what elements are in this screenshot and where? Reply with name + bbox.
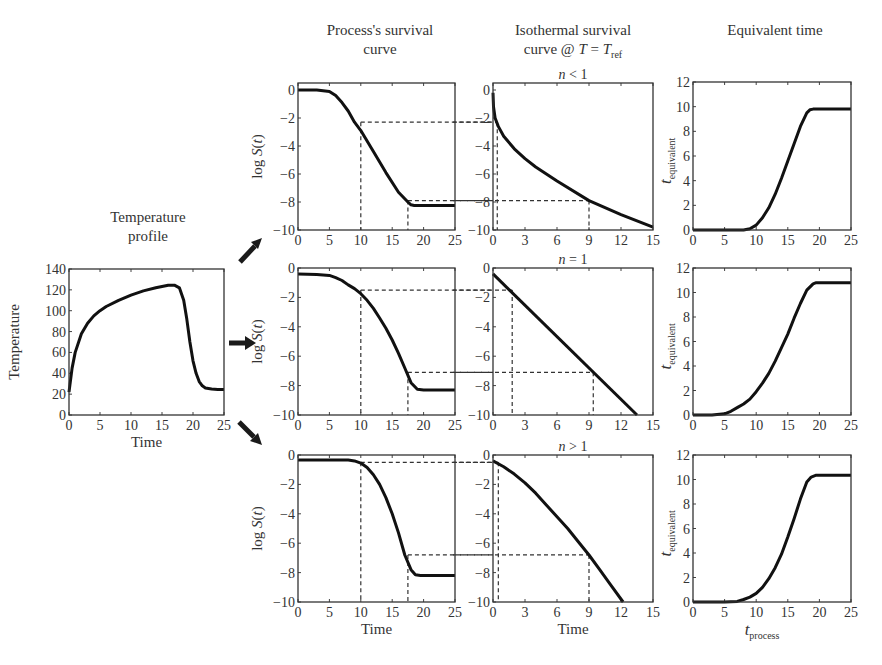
y-tick-label: −8	[280, 566, 295, 581]
x-axis-label: Time	[131, 434, 162, 450]
y-tick-label: 6	[683, 149, 690, 164]
plot-process_n_lt_1: 05101520250−2−4−6−8−10log S(t)	[249, 83, 493, 248]
x-tick-label: 25	[844, 418, 858, 433]
data-curve	[493, 93, 653, 227]
y-tick-label: 0	[288, 83, 295, 98]
plot-equivalent_n_lt_1: 0510152025024681012tequivalent	[656, 75, 858, 248]
y-tick-label: −8	[475, 195, 490, 210]
y-tick-label: −6	[475, 349, 490, 364]
x-tick-label: 25	[448, 418, 462, 433]
x-tick-label: 9	[586, 418, 593, 433]
y-tick-label: 2	[683, 198, 690, 213]
plot-equivalent_n_eq_1: 0510152025024681012tequivalent	[656, 261, 858, 433]
x-tick-label: 0	[490, 418, 497, 433]
data-curve	[693, 475, 851, 602]
y-tick-label: −2	[280, 290, 295, 305]
y-tick-label: 0	[288, 448, 295, 463]
x-tick-label: 15	[385, 233, 399, 248]
y-axis-label: tequivalent	[656, 510, 677, 557]
x-tick-label: 0	[690, 418, 697, 433]
x-tick-label: 5	[326, 418, 333, 433]
y-tick-label: −4	[475, 139, 490, 154]
x-tick-label: 10	[354, 418, 368, 433]
x-tick-label: 20	[417, 233, 431, 248]
x-tick-label: 9	[586, 233, 593, 248]
y-tick-label: −8	[280, 379, 295, 394]
arrow-down-right-icon	[239, 422, 262, 445]
x-tick-label: 15	[646, 605, 660, 620]
y-tick-label: −8	[475, 379, 490, 394]
y-tick-label: 4	[683, 359, 690, 374]
y-tick-label: −10	[273, 595, 295, 610]
x-tick-label: 25	[844, 233, 858, 248]
y-tick-label: 6	[683, 335, 690, 350]
x-tick-label: 0	[690, 605, 697, 620]
y-axis-label: tequivalent	[656, 137, 677, 184]
x-tick-label: 15	[781, 605, 795, 620]
y-tick-label: 12	[676, 261, 690, 276]
data-curve	[298, 90, 455, 206]
x-tick-label: 0	[490, 605, 497, 620]
y-tick-label: −6	[280, 349, 295, 364]
x-tick-label: 15	[385, 418, 399, 433]
y-tick-label: 0	[483, 261, 490, 276]
x-tick-label: 20	[812, 233, 826, 248]
plot-equivalent_n_gt_1: 0510152025024681012tprocesstequivalent	[656, 448, 858, 641]
x-tick-label: 15	[781, 233, 795, 248]
x-tick-label: 20	[417, 605, 431, 620]
x-tick-label: 10	[749, 418, 763, 433]
y-tick-label: −2	[475, 290, 490, 305]
x-tick-label: 5	[97, 418, 104, 433]
x-tick-label: 0	[490, 233, 497, 248]
data-curve	[493, 461, 623, 602]
y-tick-label: −4	[280, 320, 295, 335]
y-tick-label: 60	[52, 345, 66, 360]
x-tick-label: 25	[448, 605, 462, 620]
x-tick-label: 0	[295, 605, 302, 620]
data-curve	[69, 285, 224, 392]
x-axis-label: tprocess	[745, 620, 780, 641]
y-tick-label: 10	[676, 100, 690, 115]
x-tick-label: 20	[812, 605, 826, 620]
y-tick-label: −2	[280, 111, 295, 126]
y-tick-label: −4	[475, 320, 490, 335]
x-tick-label: 3	[522, 605, 529, 620]
y-axis-label: log S(t)	[249, 506, 266, 551]
x-tick-label: 0	[295, 233, 302, 248]
y-tick-label: −6	[280, 167, 295, 182]
x-tick-label: 0	[66, 418, 73, 433]
y-tick-label: 140	[45, 262, 66, 277]
y-tick-label: −4	[280, 507, 295, 522]
y-tick-label: 0	[683, 223, 690, 238]
x-tick-label: 5	[326, 605, 333, 620]
x-tick-label: 20	[417, 418, 431, 433]
x-tick-label: 5	[721, 233, 728, 248]
x-tick-label: 6	[554, 418, 561, 433]
y-tick-label: 8	[683, 497, 690, 512]
plot-process_n_gt_1: 05101520250−2−4−6−8−10Timelog S(t)	[249, 448, 493, 637]
subtitle: n = 1	[559, 252, 588, 267]
y-tick-label: 8	[683, 310, 690, 325]
subtitle: n > 1	[559, 439, 588, 454]
plot-isothermal_n_gt_1: 036912150−2−4−6−8−10n > 1Time	[453, 439, 660, 637]
x-tick-label: 10	[749, 605, 763, 620]
x-tick-label: 3	[522, 233, 529, 248]
x-tick-label: 25	[844, 605, 858, 620]
x-tick-label: 12	[614, 605, 628, 620]
y-tick-label: 10	[676, 286, 690, 301]
x-tick-label: 5	[326, 233, 333, 248]
x-tick-label: 25	[448, 233, 462, 248]
y-tick-label: 12	[676, 75, 690, 90]
y-tick-label: 40	[52, 366, 66, 381]
x-tick-label: 15	[646, 233, 660, 248]
plot-isothermal_n_lt_1: 036912150−2−4−6−8−10n < 1	[453, 67, 660, 248]
y-tick-label: 4	[683, 174, 690, 189]
y-tick-label: −10	[468, 223, 490, 238]
plot-process_n_eq_1: 05101520250−2−4−6−8−10log S(t)	[249, 261, 493, 433]
x-tick-label: 9	[586, 605, 593, 620]
y-tick-label: −2	[475, 477, 490, 492]
y-tick-label: 80	[52, 325, 66, 340]
x-tick-label: 12	[614, 233, 628, 248]
y-tick-label: 0	[483, 448, 490, 463]
figure-canvas: 0510152025020406080100120140TimeTemperat…	[0, 0, 882, 665]
